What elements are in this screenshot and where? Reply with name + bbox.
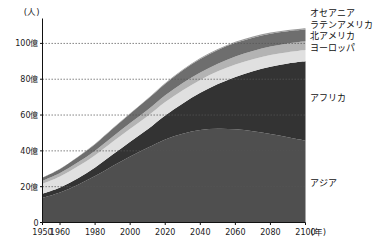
legend-label-北アメリカ: 北アメリカ xyxy=(310,31,355,41)
series-label-africa: アフリカ xyxy=(310,93,346,103)
x-tick-label: 2080 xyxy=(260,228,280,237)
x-axis-ticks: 195019601980200020202040206020802100 xyxy=(32,223,315,237)
x-tick-label: 2060 xyxy=(225,228,245,237)
chart-canvas: 020億40億60億80億100億(人)19501960198020002020… xyxy=(0,0,384,250)
y-tick-label: 0 xyxy=(33,219,38,228)
y-tick-label: 80億 xyxy=(20,74,38,84)
series-label-asia: アジア xyxy=(310,178,337,188)
x-tick-label: 1980 xyxy=(85,228,105,237)
inner-series-labels: アフリカアジア xyxy=(310,93,346,188)
plot-areas xyxy=(43,28,306,222)
y-tick-label: 100億 xyxy=(15,38,38,48)
legend-label-ラテンアメリカ: ラテンアメリカ xyxy=(310,20,373,30)
y-tick-label: 20億 xyxy=(20,182,38,192)
legend: オセアニアラテンアメリカ北アメリカヨーロッパ xyxy=(310,8,373,53)
x-tick-label: 1960 xyxy=(50,228,70,237)
y-tick-label: 40億 xyxy=(20,146,38,156)
x-tick-label: 2040 xyxy=(190,228,210,237)
population-stacked-area-chart: 020億40億60億80億100億(人)19501960198020002020… xyxy=(0,0,384,250)
y-axis-unit-label: (人) xyxy=(24,7,40,17)
x-tick-label: 2020 xyxy=(155,228,175,237)
y-axis-ticks: 020億40億60億80億100億 xyxy=(15,38,42,227)
legend-label-ヨーロッパ: ヨーロッパ xyxy=(310,43,355,53)
x-axis-unit-label: (年) xyxy=(311,227,327,237)
x-tick-label: 2000 xyxy=(120,228,140,237)
legend-label-オセアニア: オセアニア xyxy=(310,8,355,18)
y-tick-label: 60億 xyxy=(20,110,38,120)
